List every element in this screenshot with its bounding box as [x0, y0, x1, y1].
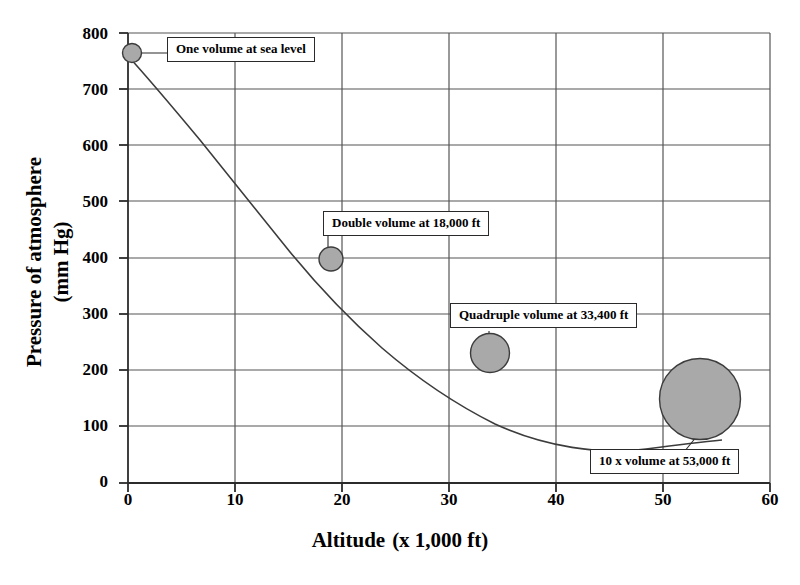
x-axis-title: Altitude(x 1,000 ft): [0, 528, 800, 553]
callout-leader-lines: [132, 53, 697, 452]
callout-quadruple-volume: Quadruple volume at 33,400 ft: [450, 303, 637, 328]
bubble-ten-volume[interactable]: [660, 359, 741, 440]
x-axis-title-part2: (x 1,000 ft): [392, 528, 488, 552]
bubble-double-volume[interactable]: [319, 247, 343, 271]
callout-one-volume: One volume at sea level: [167, 37, 315, 62]
x-axis-ticks: [128, 483, 770, 492]
callout-double-volume: Double volume at 18,000 ft: [323, 211, 489, 236]
x-axis-title-part1: Altitude: [312, 528, 386, 552]
plot-area: [0, 0, 800, 585]
pressure-curve: [128, 56, 722, 451]
bubble-one-volume[interactable]: [123, 44, 142, 63]
data-bubbles: [123, 44, 741, 440]
bubble-quadruple-volume[interactable]: [471, 334, 510, 373]
y-axis-ticks: [119, 33, 128, 483]
callout-ten-volume: 10 x volume at 53,000 ft: [590, 449, 739, 474]
chart-container: Pressure of atmosphere (mm Hg) 800 700 6…: [0, 0, 800, 585]
